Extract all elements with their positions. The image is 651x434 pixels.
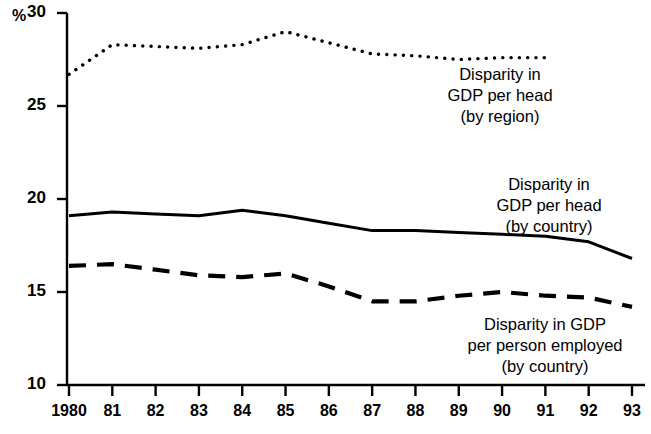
x-tick-label: 84 — [233, 402, 251, 420]
x-tick-label: 81 — [103, 402, 121, 420]
y-tick-label: 10 — [14, 374, 46, 394]
annotation-line: Disparity in — [447, 64, 552, 85]
x-tick-label: 1980 — [51, 402, 87, 420]
annotation-line: per person employed — [467, 335, 622, 356]
series-line-3 — [69, 264, 632, 307]
x-tick-label: 93 — [623, 402, 641, 420]
annotation-region: Disparity inGDP per head(by region) — [447, 64, 552, 127]
x-tick-label: 90 — [493, 402, 511, 420]
annotation-line: (by country) — [467, 356, 622, 377]
x-tick-label: 87 — [363, 402, 381, 420]
y-tick-label: 25 — [14, 95, 46, 115]
x-tick-label: 85 — [277, 402, 295, 420]
annotation-line: Disparity in — [496, 174, 601, 195]
x-tick-label: 83 — [190, 402, 208, 420]
x-tick-label: 92 — [580, 402, 598, 420]
annotation-line: GDP per head — [496, 195, 601, 216]
annotation-line: GDP per head — [447, 85, 552, 106]
annotation-line: Disparity in GDP — [467, 314, 622, 335]
y-tick-label: 30 — [14, 2, 46, 22]
annotation-person-employed: Disparity in GDPper person employed(by c… — [467, 314, 622, 377]
y-axis-ticks — [57, 13, 67, 385]
y-tick-label: 15 — [14, 281, 46, 301]
x-tick-label: 91 — [536, 402, 554, 420]
x-tick-label: 89 — [450, 402, 468, 420]
y-tick-label: 20 — [14, 188, 46, 208]
x-tick-label: 88 — [407, 402, 425, 420]
chart-figure: % 3025201510 198081828384858687888990919… — [0, 0, 651, 434]
x-tick-label: 82 — [147, 402, 165, 420]
annotation-line: (by country) — [496, 216, 601, 237]
annotation-country-head: Disparity inGDP per head(by country) — [496, 174, 601, 237]
x-axis-ticks — [69, 385, 632, 396]
x-tick-label: 86 — [320, 402, 338, 420]
annotation-line: (by region) — [447, 106, 552, 127]
